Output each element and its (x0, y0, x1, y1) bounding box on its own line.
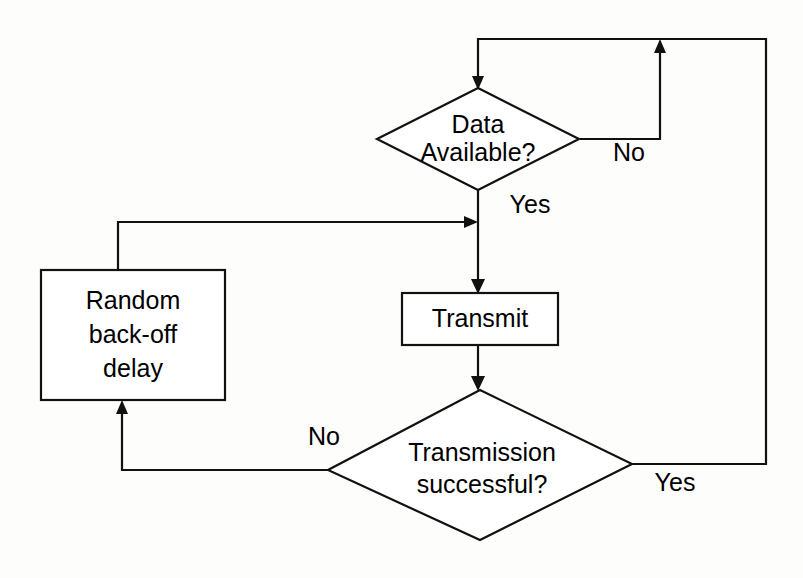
flowchart-svg: Data Available? Transmit Random back-off… (0, 0, 803, 578)
random-backoff-label-line1: Random (86, 286, 181, 314)
node-transmit[interactable]: Transmit (402, 293, 558, 345)
edge-no-to-backoff (116, 400, 328, 470)
edge-label-transmission-no: No (308, 422, 340, 450)
edge-no-to-backoff-arrowhead (116, 400, 128, 414)
edge-label-data-available-yes: Yes (510, 190, 551, 218)
random-backoff-label-line2: back-off (89, 320, 178, 348)
edge-backoff-to-transmit-line (118, 222, 470, 270)
edge-no-loop-line (580, 47, 660, 139)
edge-label-data-available-no: No (613, 138, 645, 166)
edge-backoff-to-transmit-arrowhead (464, 216, 478, 228)
transmission-successful-label-line2: successful? (417, 470, 548, 498)
edge-label-transmission-yes: Yes (655, 468, 696, 496)
edge-yes-to-transmit-arrowhead (471, 279, 485, 294)
node-transmission-successful[interactable]: Transmission successful? (328, 390, 632, 540)
transmission-successful-label-line1: Transmission (408, 438, 556, 466)
random-backoff-label-line3: delay (103, 354, 163, 382)
edge-backoff-to-transmit-path (118, 216, 478, 270)
node-data-available[interactable]: Data Available? (377, 88, 579, 190)
edge-transmit-to-check (471, 345, 485, 391)
transmit-label: Transmit (432, 304, 528, 332)
flowchart-canvas: Data Available? Transmit Random back-off… (0, 0, 803, 578)
edge-yes-to-start (472, 39, 766, 464)
edge-no-loop-arrowhead (654, 39, 666, 53)
edge-no-loop-to-top (580, 39, 666, 139)
edge-no-to-backoff-line (122, 408, 328, 470)
node-random-backoff-delay[interactable]: Random back-off delay (41, 270, 225, 400)
data-available-label-line2: Available? (421, 138, 536, 166)
edge-yes-to-transmit (471, 190, 485, 294)
edge-transmit-to-check-arrowhead (471, 376, 485, 391)
data-available-label-line1: Data (452, 110, 505, 138)
edge-yes-to-start-line (478, 39, 766, 464)
